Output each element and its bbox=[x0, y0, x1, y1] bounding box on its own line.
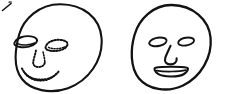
drawing-canvas: Two hand-drawn faces Black ink line draw… bbox=[0, 0, 228, 94]
left-face-mouth bbox=[22, 69, 60, 81]
left-face-right-eye bbox=[46, 40, 68, 51]
right-face-mouth bbox=[155, 67, 188, 77]
right-face bbox=[132, 5, 211, 89]
right-face-right-eye bbox=[178, 38, 194, 46]
corner-tick-mark bbox=[3, 2, 12, 11]
left-face-nose bbox=[33, 51, 45, 68]
right-face-left-eye bbox=[149, 38, 166, 47]
left-face-outline bbox=[16, 4, 102, 91]
faces-illustration bbox=[0, 0, 228, 94]
left-face bbox=[14, 4, 101, 91]
right-face-nose bbox=[165, 46, 177, 65]
